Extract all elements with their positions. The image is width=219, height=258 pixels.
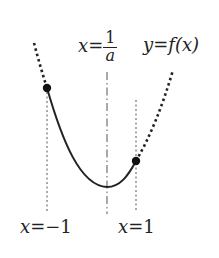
fraction-one-over-a: 1a [103,30,117,65]
point-x-1 [132,157,140,165]
fraction-denominator: a [103,48,117,65]
label-value: −1 [45,216,72,237]
label-x-var: x [118,216,128,237]
label-equals: = [128,216,143,237]
curve-dotted-right [136,70,173,161]
label-y-var: y [143,34,153,55]
label-paren-x: (x) [175,34,199,55]
label-right-line: x=1 [118,218,155,236]
label-x-var: x [20,216,30,237]
label-value: 1 [143,216,154,237]
curve-solid [47,88,136,187]
label-equals: = [30,216,45,237]
label-axis-center: x=1a [78,30,117,65]
curve-dotted-left [34,43,47,88]
label-left-line: x=−1 [20,218,72,236]
label-equals: = [153,34,168,55]
label-equals: = [88,35,103,56]
label-curve: y=f(x) [143,36,199,54]
label-f: f [168,34,175,55]
point-x-neg1 [43,84,51,92]
label-x-var: x [78,35,88,56]
